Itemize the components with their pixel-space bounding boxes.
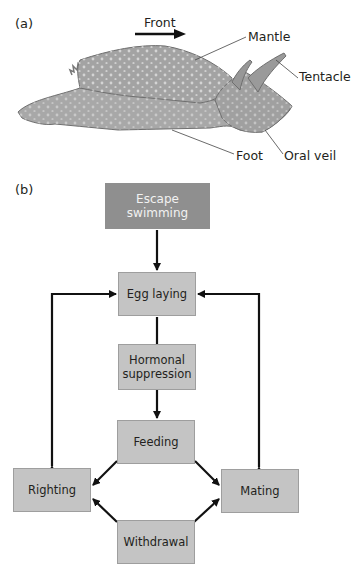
arrow-feeding-to-righting — [93, 461, 117, 485]
node-righting-label: Righting — [28, 483, 76, 497]
node-escape-swimming: Escape swimming — [105, 183, 210, 229]
node-hormonal-suppression: Hormonal suppression — [118, 344, 196, 390]
node-mating-label: Mating — [240, 484, 279, 498]
node-egg-laying: Egg laying — [118, 272, 196, 316]
arrow-feeding-to-mating — [195, 461, 219, 485]
arrow-withdrawal-to-righting — [93, 499, 117, 522]
arrow-withdrawal-to-mating — [194, 499, 219, 522]
node-withdrawal: Withdrawal — [117, 520, 195, 564]
node-righting: Righting — [13, 468, 91, 512]
node-escape-swimming-label: Escape swimming — [106, 192, 209, 220]
node-feeding-label: Feeding — [133, 435, 178, 449]
arrow-righting-egg — [52, 294, 116, 466]
arrow-mating-egg — [198, 294, 259, 467]
node-mating: Mating — [221, 469, 299, 513]
node-feeding: Feeding — [117, 420, 195, 464]
node-hormonal-label-line1: Hormonal — [129, 353, 185, 367]
node-hormonal-label-line2: suppression — [123, 367, 192, 381]
node-egg-laying-label: Egg laying — [127, 287, 187, 301]
node-withdrawal-label: Withdrawal — [124, 535, 189, 549]
